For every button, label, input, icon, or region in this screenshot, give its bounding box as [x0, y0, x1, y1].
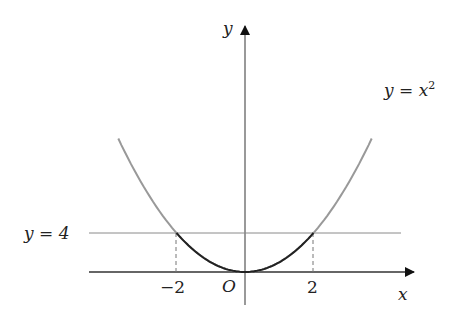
origin-label: O — [222, 278, 236, 295]
curve-label-exponent: 2 — [428, 79, 435, 92]
y-axis-label: y — [223, 20, 233, 37]
x-axis-label: x — [398, 286, 408, 303]
tick-label-neg2: −2 — [160, 279, 185, 296]
line-label-y4: y = 4 — [24, 225, 69, 242]
curve-label: y = x2 — [384, 80, 435, 99]
curve-label-text: y = x — [384, 80, 428, 100]
plot-area — [0, 0, 466, 317]
parabola-figure: y x O −2 2 y = x2 y = 4 — [0, 0, 466, 317]
tick-label-2: 2 — [307, 279, 318, 296]
